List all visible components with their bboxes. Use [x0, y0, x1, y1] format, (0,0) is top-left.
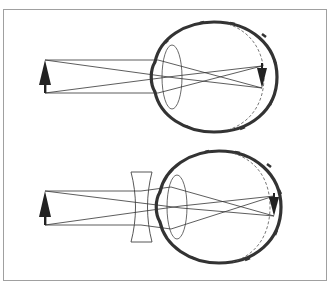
- myopia-diagram: [0, 0, 335, 286]
- figure-frame: [4, 10, 327, 281]
